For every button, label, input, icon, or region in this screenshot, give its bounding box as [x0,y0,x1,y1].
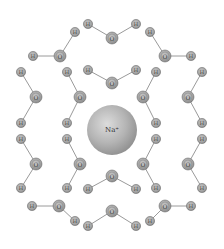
sodium-hydration-diagram: Na⁺ OHHOHHOHHOHHOHHOHHOHHOHHOHHOHHOHHOHH… [0,0,224,249]
hydrogen-atom: H [186,201,195,210]
oxygen-atom: O [137,91,149,103]
hydrogen-label: H [65,185,70,191]
hydrogen-atom: H [16,67,25,76]
oxygen-label: O [110,35,115,42]
hydrogen-label: H [148,218,153,224]
hydrogen-atom: H [131,184,140,193]
oxygen-atom: O [74,158,86,170]
hydrogen-label: H [73,29,78,35]
oxygen-label: O [141,94,146,101]
oxygen-atom: O [106,32,118,44]
hydrogen-label: H [134,67,139,73]
hydrogen-label: H [200,136,205,142]
hydrogen-label: H [19,136,24,142]
hydrogen-label: H [19,69,24,75]
hydrogen-atom: H [62,118,71,127]
hydrogen-label: H [154,69,159,75]
hydrogen-atom: H [151,134,160,143]
hydrogen-label: H [65,120,70,126]
oxygen-label: O [186,161,191,168]
hydrogen-atom: H [197,134,206,143]
hydrogen-label: H [154,120,159,126]
hydrogen-label: H [65,136,70,142]
oxygen-label: O [78,161,83,168]
oxygen-label: O [186,94,191,101]
oxygen-label: O [57,203,62,210]
oxygen-label: O [78,94,83,101]
oxygen-atom: O [106,205,118,217]
hydrogen-atom: H [145,27,154,36]
oxygen-atom: O [182,158,194,170]
hydrogen-atom: H [62,183,71,192]
hydrogen-atom: H [16,183,25,192]
hydrogen-atom: H [145,216,154,225]
hydrogen-atom: H [131,19,140,28]
hydrogen-label: H [19,120,24,126]
hydrogen-label: H [86,186,91,192]
hydrogen-atom: H [197,183,206,192]
hydrogen-atom: H [83,184,92,193]
hydrogen-label: H [86,223,91,229]
oxygen-label: O [163,203,168,210]
hydrogen-label: H [200,69,205,75]
hydrogen-label: H [200,120,205,126]
oxygen-atom: O [106,77,118,89]
hydrogen-label: H [134,21,139,27]
oxygen-atom: O [159,200,171,212]
oxygen-label: O [110,80,115,87]
oxygen-atom: O [159,50,171,62]
oxygen-atom: O [53,200,65,212]
hydrogen-atom: H [16,118,25,127]
oxygen-atom: O [74,91,86,103]
hydrogen-atom: H [186,51,195,60]
hydrogen-label: H [189,53,194,59]
oxygen-label: O [141,161,146,168]
oxygen-atom: O [106,170,118,182]
hydrogen-atom: H [151,183,160,192]
hydrogen-atom: H [62,67,71,76]
hydrogen-atom: H [131,221,140,230]
hydrogen-label: H [86,67,91,73]
hydrogen-label: H [200,185,205,191]
hydrogen-label: H [154,136,159,142]
oxygen-label: O [163,53,168,60]
oxygen-label: O [34,94,39,101]
oxygen-label: O [110,208,115,215]
hydrogen-atom: H [28,51,37,60]
hydrogen-atom: H [83,65,92,74]
hydrogen-label: H [19,185,24,191]
hydrogen-atom: H [70,216,79,225]
hydrogen-label: H [134,186,139,192]
hydrogen-atom: H [70,27,79,36]
hydrogen-label: H [154,185,159,191]
hydrogen-atom: H [197,118,206,127]
hydrogen-atom: H [131,65,140,74]
oxygen-atom: O [137,158,149,170]
hydrogen-label: H [65,69,70,75]
oxygen-atom: O [30,158,42,170]
oxygen-label: O [58,53,63,60]
hydrogen-atom: H [62,134,71,143]
hydrogen-label: H [189,203,194,209]
sodium-ion-label: Na⁺ [105,126,119,134]
hydrogen-atom: H [151,118,160,127]
hydrogen-atom: H [83,221,92,230]
oxygen-label: O [110,173,115,180]
oxygen-atom: O [54,50,66,62]
hydrogen-label: H [31,53,36,59]
sodium-ion: Na⁺ [87,105,137,155]
hydrogen-label: H [73,218,78,224]
hydrogen-label: H [148,29,153,35]
oxygen-atom: O [182,91,194,103]
hydrogen-label: H [86,21,91,27]
hydrogen-atom: H [83,19,92,28]
hydrogen-atom: H [27,201,36,210]
hydrogen-atom: H [16,134,25,143]
oxygen-atom: O [30,91,42,103]
oxygen-label: O [34,161,39,168]
hydrogen-label: H [30,203,35,209]
hydrogen-atom: H [197,67,206,76]
hydrogen-label: H [134,223,139,229]
hydrogen-atom: H [151,67,160,76]
